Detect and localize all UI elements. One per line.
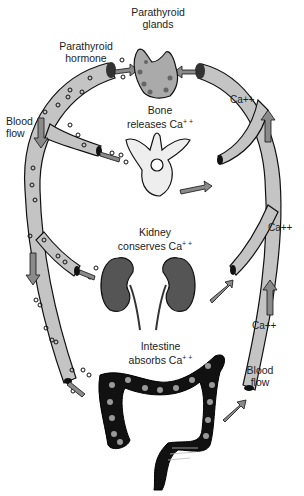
- right-kidney: [163, 258, 195, 312]
- calcium-marker: Ca++: [252, 320, 276, 331]
- kidneys: [101, 258, 195, 330]
- left-kidney: [101, 258, 133, 312]
- bone-label: Bone releases Ca+ +: [120, 104, 200, 130]
- bone-vertebra: [126, 133, 190, 196]
- label-line: Blood: [240, 364, 280, 376]
- label-line: absorbs Ca: [129, 354, 183, 366]
- label-line: Blood: [6, 115, 36, 127]
- label-line: Parathyroid: [56, 40, 116, 52]
- label-line: hormone: [56, 52, 116, 64]
- label-line: glands: [128, 18, 188, 30]
- label-line: releases Ca: [127, 118, 183, 130]
- kidney-label: Kidney conserves Ca+ +: [110, 226, 200, 252]
- superscript: + +: [182, 240, 192, 247]
- parathyroid-glands-label: Parathyroid glands: [128, 6, 188, 30]
- calcium-marker: Ca++: [230, 94, 254, 105]
- label-line: Parathyroid: [128, 6, 188, 18]
- superscript: + +: [183, 118, 193, 125]
- calcium-regulation-diagram: Parathyroid glands Parathyroid hormone B…: [0, 0, 304, 496]
- intestine-label: Intestine absorbs Ca+ +: [118, 340, 203, 366]
- vessel-opening: [106, 62, 116, 78]
- label-line: flow: [6, 127, 36, 139]
- left-blood-vessel: [25, 62, 116, 384]
- label-line: flow: [240, 376, 280, 388]
- calcium-marker: Ca++: [268, 222, 292, 233]
- blood-flow-left-label: Blood flow: [6, 115, 36, 139]
- label-line: Intestine: [118, 340, 203, 352]
- label-line: Kidney: [110, 226, 200, 238]
- parathyroid-hormone-label: Parathyroid hormone: [56, 40, 116, 64]
- intestine-colon: [99, 355, 225, 490]
- blood-flow-right-label: Blood flow: [240, 364, 280, 388]
- superscript: + +: [182, 354, 192, 361]
- label-line: conserves Ca: [118, 240, 182, 252]
- parathyroid-glands: [134, 49, 177, 98]
- label-line: Bone: [120, 104, 200, 116]
